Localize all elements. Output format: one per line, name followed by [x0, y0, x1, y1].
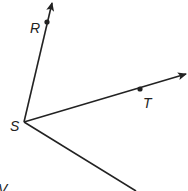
point-r: [44, 19, 49, 24]
angle-diagram: R S T V: [0, 0, 188, 191]
ray-st: [24, 74, 186, 122]
point-t: [137, 86, 142, 91]
label-s: S: [10, 118, 20, 134]
label-r: R: [30, 20, 40, 36]
label-t: T: [143, 95, 153, 111]
label-v: V: [0, 181, 9, 191]
ray-sv: [24, 122, 136, 191]
